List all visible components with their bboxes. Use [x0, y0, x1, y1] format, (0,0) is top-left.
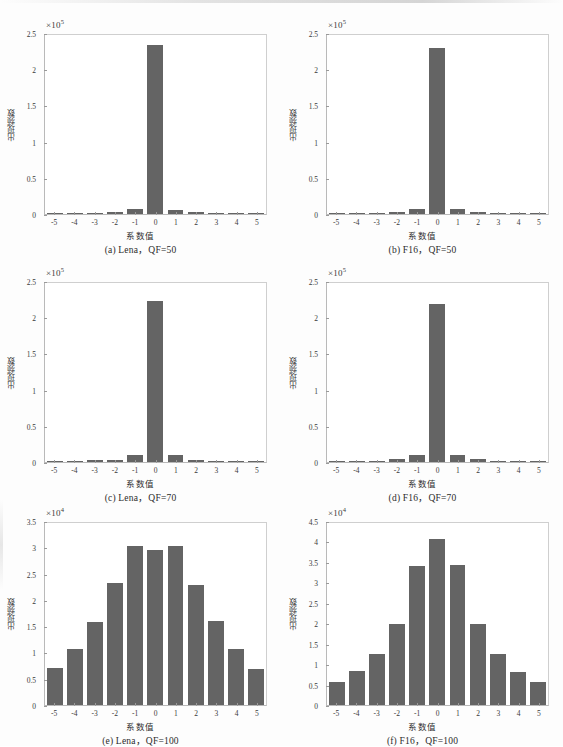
bar	[208, 621, 224, 705]
exponent-base: ×10	[328, 20, 343, 30]
x-tick-mark	[135, 460, 136, 463]
bar-series-c	[45, 283, 266, 462]
y-tick-label: 1.5	[0, 350, 36, 359]
chart-e: ×104出现频数00.511.522.533.5-5-4-3-2-1012345…	[0, 498, 281, 746]
x-axis-label-e: 系数值	[0, 720, 281, 732]
plot-area-a	[44, 34, 267, 215]
x-tick-mark	[478, 460, 479, 463]
x-tick-label: -3	[92, 466, 98, 475]
y-tick-label: 1	[0, 386, 36, 395]
bar	[228, 649, 244, 705]
x-tick-label: -2	[394, 709, 400, 718]
y-tick-mark	[44, 34, 47, 35]
y-tick-label: 0	[279, 459, 318, 468]
x-tick-label: -2	[112, 466, 118, 475]
x-tick-label: 2	[194, 218, 198, 227]
exponent-power: 5	[343, 18, 346, 25]
x-tick-label: -1	[414, 218, 420, 227]
chart-cell-e: ×104出现频数00.511.522.533.5-5-4-3-2-1012345…	[0, 498, 281, 746]
y-tick-mark	[44, 706, 47, 707]
y-tick-label: 0.5	[0, 174, 36, 183]
x-tick-mark	[237, 460, 238, 463]
x-tick-mark	[539, 703, 540, 706]
y-tick-label: 0.5	[0, 675, 36, 684]
y-tick-mark	[326, 215, 329, 216]
x-axis-label-c: 系数值	[0, 477, 281, 489]
y-tick-label: 2	[279, 66, 318, 75]
x-tick-label: 3	[496, 466, 500, 475]
exponent-base: ×10	[46, 268, 61, 278]
y-tick-label: 3	[279, 579, 318, 588]
bar	[248, 213, 264, 214]
x-tick-mark	[135, 703, 136, 706]
chart-cell-d: ×105出现频数00.511.522.5-5-4-3-2-1012345系数值(…	[282, 258, 563, 503]
x-tick-mark	[498, 212, 499, 215]
bar	[429, 304, 445, 462]
x-tick-mark	[539, 212, 540, 215]
x-tick-label: 3	[214, 709, 218, 718]
x-tick-label: 2	[476, 709, 480, 718]
exponent-base: ×10	[46, 508, 61, 518]
y-tick-mark	[44, 575, 47, 576]
x-tick-label: -1	[132, 709, 138, 718]
x-tick-label: 5	[537, 709, 541, 718]
x-tick-label: 3	[496, 709, 500, 718]
bar	[87, 622, 103, 705]
y-tick-label: 0.5	[279, 174, 318, 183]
x-tick-mark	[519, 703, 520, 706]
x-tick-label: -5	[51, 218, 57, 227]
x-tick-mark	[54, 703, 55, 706]
x-tick-mark	[438, 703, 439, 706]
x-tick-label: -3	[374, 466, 380, 475]
y-tick-mark	[326, 354, 329, 355]
chart-f: ×104出现频数00.511.522.533.544.5-5-4-3-2-101…	[282, 498, 563, 746]
bar	[450, 565, 466, 705]
y-axis-label-c: 出现频数	[6, 357, 17, 389]
bar	[147, 45, 163, 214]
y-tick-label: 2.5	[279, 278, 318, 287]
chart-caption-e: (e) Lena，QF=100	[0, 733, 281, 747]
x-tick-label: 4	[517, 218, 521, 227]
bar	[470, 624, 486, 705]
x-tick-mark	[135, 212, 136, 215]
x-tick-mark	[95, 703, 96, 706]
exponent-power: 5	[343, 266, 346, 273]
chart-a: ×105出现频数00.511.522.5-5-4-3-2-1012345系数值(…	[0, 10, 281, 255]
x-tick-label: 0	[436, 709, 440, 718]
x-tick-label: -1	[132, 218, 138, 227]
x-tick-mark	[539, 460, 540, 463]
y-tick-label: 1.5	[0, 102, 36, 111]
y-tick-label: 1.5	[279, 102, 318, 111]
y-tick-label: 2.5	[0, 278, 36, 287]
exponent-base: ×10	[328, 508, 343, 518]
bar	[127, 546, 143, 705]
x-tick-label: 1	[174, 466, 178, 475]
bar	[147, 550, 163, 705]
y-axis-label-b: 出现频数	[288, 109, 299, 141]
y-tick-label: 0	[279, 211, 318, 220]
bar-series-a	[45, 35, 266, 214]
x-tick-mark	[176, 460, 177, 463]
y-tick-label: 4	[279, 538, 318, 547]
y-tick-mark	[326, 686, 329, 687]
x-tick-label: -5	[51, 709, 57, 718]
x-tick-mark	[196, 703, 197, 706]
x-tick-mark	[417, 703, 418, 706]
x-tick-mark	[417, 212, 418, 215]
y-tick-mark	[44, 318, 47, 319]
y-tick-mark	[326, 143, 329, 144]
x-tick-label: 1	[174, 218, 178, 227]
y-tick-label: 2.5	[279, 599, 318, 608]
x-tick-label: 1	[456, 466, 460, 475]
y-tick-label: 2.5	[279, 30, 318, 39]
x-tick-label: -5	[333, 218, 339, 227]
x-tick-label: 5	[255, 709, 259, 718]
y-tick-mark	[44, 601, 47, 602]
exponent-power: 4	[61, 506, 64, 513]
x-tick-label: 2	[194, 709, 198, 718]
x-tick-mark	[438, 212, 439, 215]
y-tick-label: 0.5	[279, 681, 318, 690]
y-tick-mark	[44, 548, 47, 549]
bar	[429, 539, 445, 705]
x-tick-mark	[478, 212, 479, 215]
